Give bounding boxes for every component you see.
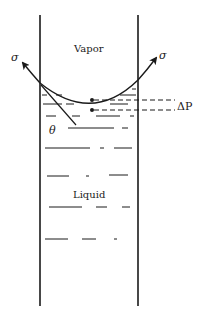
contact-angle-tangent (41, 85, 76, 125)
capillary-diagram: Vapor σ σ θ ΔP (0, 0, 202, 314)
sigma-left-arrow (23, 63, 40, 83)
sigma-right-arrow (138, 58, 156, 80)
liquid-label: Liquid (73, 189, 106, 200)
pressure-point-lower (90, 108, 94, 112)
theta-label: θ (49, 124, 56, 137)
vapor-label: Vapor (73, 43, 104, 54)
sigma-right-label: σ (159, 49, 167, 62)
pressure-point-upper (90, 98, 94, 102)
liquid-hatching (42, 89, 136, 239)
delta-p-label: ΔP (177, 100, 193, 113)
sigma-left-label: σ (11, 51, 19, 64)
